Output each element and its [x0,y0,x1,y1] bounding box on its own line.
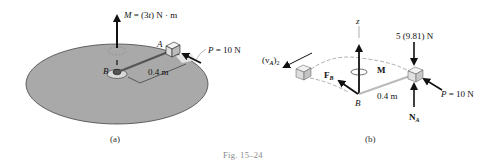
point-B-label-b: B [355,98,361,108]
figure-caption: Fig. 15–24 [223,150,263,160]
length-label-a: 0.4 m [148,67,169,77]
moment-label: M = (3t) N · m [123,10,177,20]
z-axis-label: z [355,16,360,26]
ghost-block [296,65,311,80]
block-A-fbd [408,67,423,82]
figure-canvas: M = (3t) N · m A B P = 10 N 0.4 m (a) [0,0,503,164]
panel-a: M = (3t) N · m A B P = 10 N 0.4 m (a) [26,10,241,144]
force-FB-label: FB [324,70,334,81]
weight-label: 5 (9.81) N [396,31,434,41]
normal-label: NA [409,112,420,123]
velocity-label: (vA)2 [262,55,280,66]
point-A-label: A [156,39,163,49]
force-P-label-b: P = 10 N [440,89,474,99]
force-P-arrow-b [424,79,442,90]
panel-a-caption: (a) [110,134,120,144]
dashed-path [306,57,410,73]
panel-b-caption: (b) [365,134,376,144]
length-label-b: 0.4 m [377,91,398,101]
moment-M-label: M [377,65,386,75]
force-P-label: P = 10 N [207,45,241,55]
velocity-arrow [284,53,312,67]
panel-b: z 5 (9.81) N M (vA)2 FB B 0.4 m P = 10 N… [262,16,474,144]
point-B-label: B [103,66,109,76]
force-FB-arrow [339,81,358,94]
